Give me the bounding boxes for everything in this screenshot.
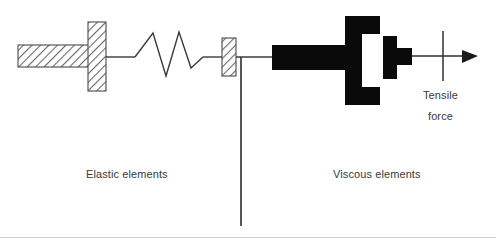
hatched-horizontal-bar [18, 45, 92, 67]
hatched-vertical-post [88, 22, 106, 91]
filled-c-shaped-cylinder [345, 16, 380, 105]
label-tensile-force-line2: force [428, 110, 453, 122]
wall-support-group [18, 22, 106, 91]
label-tensile-force-line1: Tensile [423, 89, 458, 101]
force-arrow-group [412, 31, 478, 81]
zigzag-spring [135, 32, 203, 76]
label-viscous-elements: Viscous elements [333, 168, 421, 180]
dashpot-group [272, 16, 380, 105]
diagram-canvas: Elastic elements Viscous elements Tensil… [0, 0, 496, 242]
spring-group [106, 32, 222, 76]
force-arrow-head [462, 50, 478, 63]
label-elastic-elements: Elastic elements [86, 168, 168, 180]
footer-divider [0, 237, 496, 238]
piston-group [383, 36, 412, 79]
piston-stub-rod [397, 48, 412, 65]
dashpot-rod-left [272, 45, 348, 70]
filled-piston-plate [383, 36, 397, 79]
hatched-small-block [222, 38, 236, 76]
mechanical-model-svg [0, 0, 496, 242]
